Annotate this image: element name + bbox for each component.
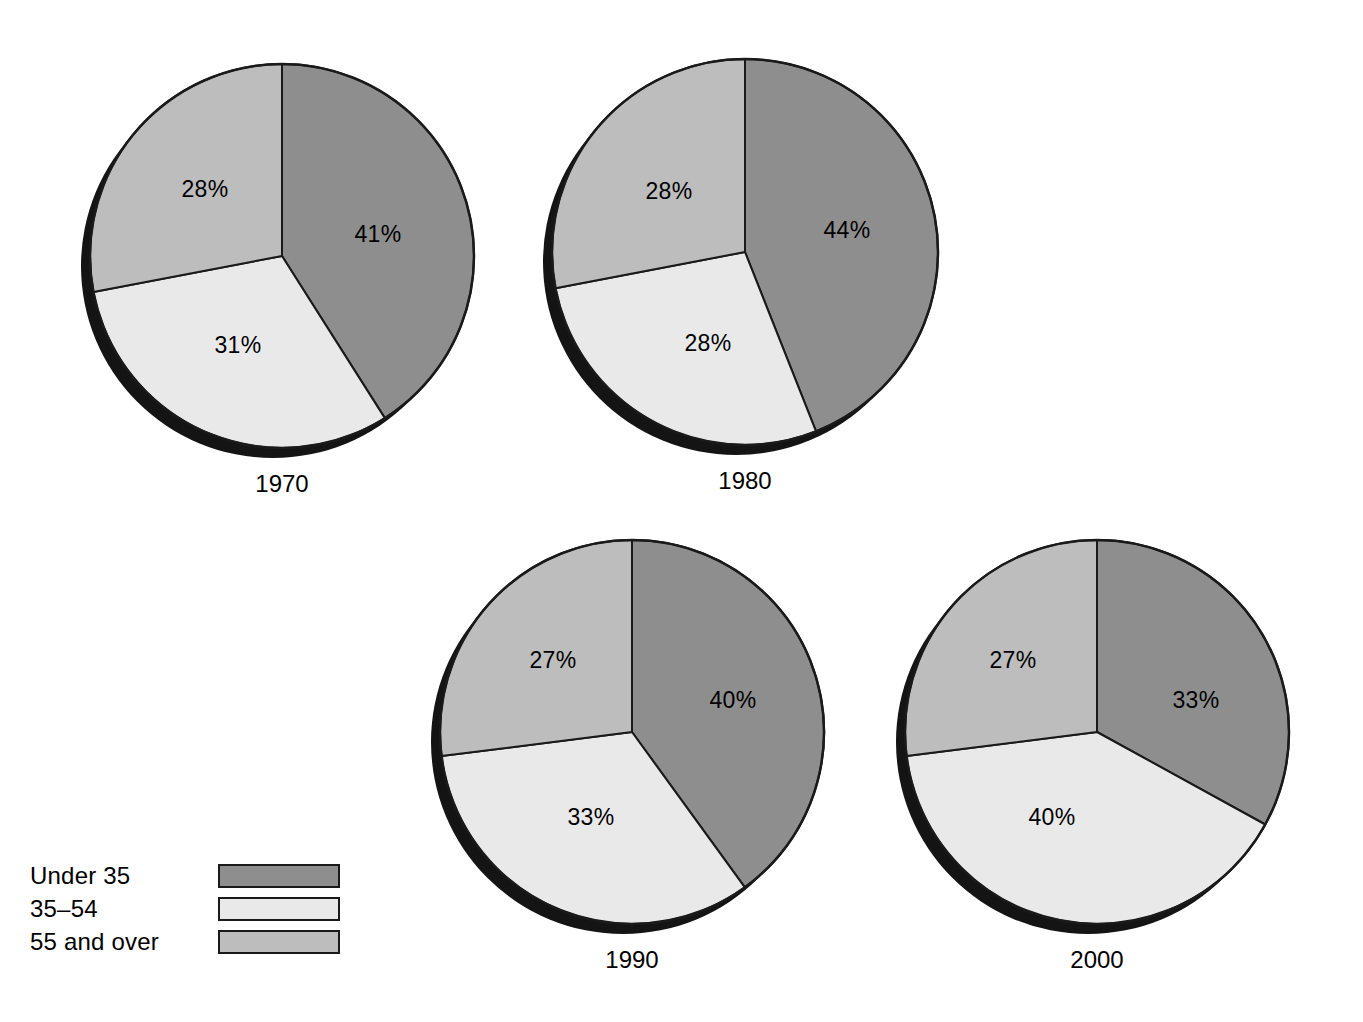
legend-row-under-35[interactable]: Under 35 bbox=[30, 861, 340, 891]
pie-chart-2000: 33%40%27%2000 bbox=[879, 514, 1315, 950]
pie-slice-value-1970-under-35: 41% bbox=[338, 221, 418, 248]
legend-label: 55 and over bbox=[30, 927, 159, 957]
pie-chart-1970: 41%31%28%1970 bbox=[64, 38, 500, 474]
pie-year-caption-1990: 1990 bbox=[562, 946, 702, 974]
pie-slice-value-1990-35-54: 33% bbox=[551, 804, 631, 831]
pie-slice-value-2000-35-54: 40% bbox=[1012, 804, 1092, 831]
pie-slice-value-1990-under-35: 40% bbox=[693, 687, 773, 714]
pie-slice-value-1980-35-54: 28% bbox=[668, 330, 748, 357]
pie-year-caption-1970: 1970 bbox=[212, 470, 352, 498]
pie-graphic-1980 bbox=[526, 33, 964, 471]
pie-chart-1990: 40%33%27%1990 bbox=[414, 514, 850, 950]
legend-label: Under 35 bbox=[30, 861, 130, 891]
legend-swatch-35-54 bbox=[218, 897, 340, 921]
pie-slice-value-1970-55-and-over: 28% bbox=[165, 176, 245, 203]
pie-slice-value-1980-under-35: 44% bbox=[807, 217, 887, 244]
pie-year-caption-1980: 1980 bbox=[675, 467, 815, 495]
pie-graphic-1970 bbox=[64, 38, 500, 474]
pie-chart-1980: 44%28%28%1980 bbox=[526, 33, 964, 471]
pie-slice-value-2000-55-and-over: 27% bbox=[973, 647, 1053, 674]
pie-slice-value-1980-55-and-over: 28% bbox=[629, 178, 709, 205]
pie-chart-figure: 41%31%28%197044%28%28%198040%33%27%19903… bbox=[0, 0, 1363, 1022]
legend-row-35-54[interactable]: 35–54 bbox=[30, 894, 340, 924]
pie-graphic-2000 bbox=[879, 514, 1315, 950]
legend-swatch-55-and-over bbox=[218, 930, 340, 954]
pie-slice-value-1990-55-and-over: 27% bbox=[513, 647, 593, 674]
pie-year-caption-2000: 2000 bbox=[1027, 946, 1167, 974]
legend-row-55-and-over[interactable]: 55 and over bbox=[30, 927, 340, 957]
legend-swatch-under-35 bbox=[218, 864, 340, 888]
pie-slice-value-2000-under-35: 33% bbox=[1156, 687, 1236, 714]
pie-slice-1980-55-and-over[interactable] bbox=[552, 59, 745, 288]
age-group-legend: Under 3535–5455 and over bbox=[30, 861, 340, 961]
pie-slice-value-1970-35-54: 31% bbox=[198, 332, 278, 359]
legend-label: 35–54 bbox=[30, 894, 98, 924]
pie-graphic-1990 bbox=[414, 514, 850, 950]
